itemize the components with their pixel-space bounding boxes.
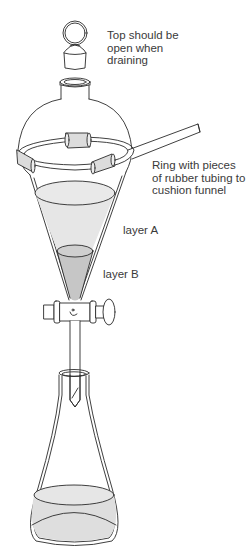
ring-note-line-1: Ring with pieces xyxy=(152,159,245,172)
layer-a-label: layer A xyxy=(123,224,158,237)
top-open-note-line-1: Top should be xyxy=(107,29,179,42)
ring-note-line-2: of rubber tubing to xyxy=(152,172,245,185)
layer-b-label: layer B xyxy=(103,268,139,281)
stopper-icon xyxy=(63,21,87,70)
ring-note: Ring with pieces of rubber tubing to cus… xyxy=(152,159,245,197)
top-open-note-line-2: open when xyxy=(107,42,179,55)
separatory-funnel-diagram: Top should be open when draining Ring wi… xyxy=(0,0,252,555)
collected-liquid xyxy=(32,485,116,541)
rubber-tubing-pieces xyxy=(17,133,115,174)
tubing-piece-left xyxy=(17,150,35,173)
tubing-piece-back xyxy=(65,133,91,148)
ring-note-line-3: cushion funnel xyxy=(152,184,245,197)
drain-stem xyxy=(70,321,80,407)
top-open-note: Top should be open when draining xyxy=(107,29,179,67)
layer-a-liquid xyxy=(35,181,115,255)
support-ring-arm xyxy=(128,124,200,159)
tubing-piece-right xyxy=(91,154,115,174)
top-open-note-line-3: draining xyxy=(107,54,179,67)
funnel-neck xyxy=(60,78,90,99)
